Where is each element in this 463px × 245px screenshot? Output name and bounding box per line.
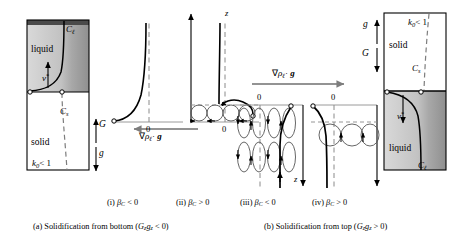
label-c-liquid-b: Cℓ bbox=[418, 160, 427, 171]
label-liquid-b: liquid bbox=[389, 143, 411, 153]
panel-b-iv bbox=[311, 104, 379, 188]
panel-b-material-box bbox=[377, 13, 446, 170]
label-liquid-a: liquid bbox=[31, 44, 53, 54]
profile-node-iii bbox=[289, 104, 293, 108]
profile-curve-ii bbox=[219, 23, 220, 104]
roll-flow-arrow-ii bbox=[222, 104, 226, 106]
figure-canvas bbox=[0, 0, 463, 245]
label-c-solid-b: Cs bbox=[412, 63, 421, 74]
top-band-a bbox=[27, 20, 89, 25]
liquid-region-a bbox=[27, 20, 89, 92]
profile-curve-iii bbox=[280, 107, 291, 188]
convection-rolls-iii bbox=[238, 108, 296, 172]
panel-a-ii bbox=[190, 14, 259, 122]
z-axis-label-ii: z bbox=[225, 8, 228, 18]
label-gravity-a: g bbox=[99, 148, 104, 158]
interface-node-right-a bbox=[60, 90, 64, 94]
profile-node-i bbox=[112, 119, 116, 123]
liquid-region-b bbox=[384, 91, 446, 170]
label-velocity-b: v* bbox=[397, 110, 404, 121]
label-solid-a: solid bbox=[31, 137, 49, 147]
zero-label-ii: 0 bbox=[222, 124, 226, 134]
subcaption-iv: (iv) βC > 0 bbox=[312, 198, 347, 207]
label-partition-b: k0< 1 bbox=[408, 17, 427, 28]
profile-curve-i bbox=[114, 23, 146, 121]
label-c-liquid-a: Cℓ bbox=[66, 24, 75, 35]
caption-a: (a) Solidification from bottom (Gzgz < 0… bbox=[33, 222, 169, 231]
subcaption-ii: (ii) βC > 0 bbox=[176, 198, 209, 207]
convection-roll-ii bbox=[191, 105, 207, 121]
interface-node-right-b bbox=[419, 90, 423, 94]
label-gravity-b: g bbox=[363, 19, 368, 29]
density-gradient-label-b: ∇ρℓ· g bbox=[272, 68, 295, 79]
panel-a-i bbox=[112, 22, 183, 123]
label-velocity-a: v* bbox=[42, 72, 49, 83]
label-partition-a: k0< 1 bbox=[32, 158, 51, 169]
label-gradient-a: G bbox=[99, 119, 106, 129]
label-gradient-b: G bbox=[362, 48, 369, 58]
convection-roll-ii bbox=[207, 105, 223, 121]
density-gradient-label-a: ∇ρℓ· g bbox=[139, 131, 162, 142]
interface-node-left-b bbox=[385, 90, 389, 94]
convection-rolls-iv bbox=[319, 124, 379, 146]
panel-a-material-box bbox=[27, 20, 96, 171]
zero-label-iii: 0 bbox=[257, 92, 261, 102]
profile-node-iv bbox=[311, 104, 315, 108]
label-c-solid-a: Cs bbox=[60, 106, 69, 117]
interface-node-left-a bbox=[28, 90, 32, 94]
figure-root: Cℓ liquid v* Cs solid k0< 1 G g 0 0 z ∇ρ… bbox=[0, 0, 463, 245]
subcaption-i: (i) βC < 0 bbox=[107, 198, 138, 207]
caption-b: (b) Solidification from top (Gzgz > 0) bbox=[264, 222, 387, 231]
profile-curve-iv bbox=[313, 106, 327, 188]
label-solid-b: solid bbox=[389, 40, 407, 50]
z-axis-label-iii: z bbox=[294, 174, 297, 184]
subcaption-iii: (iii) βC < 0 bbox=[240, 198, 276, 207]
zero-label-iv: 0 bbox=[331, 92, 335, 102]
roll-flow-arrows-iv bbox=[341, 133, 363, 142]
